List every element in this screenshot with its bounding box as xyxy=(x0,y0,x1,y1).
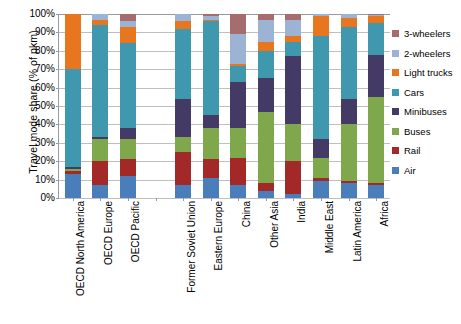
bar-segment[interactable] xyxy=(258,191,274,198)
bar-segment[interactable] xyxy=(120,14,136,21)
stacked-bar[interactable] xyxy=(65,14,81,198)
bar-segment[interactable] xyxy=(313,36,329,139)
bar-slot xyxy=(224,14,252,198)
y-tick-label: 30% xyxy=(35,138,55,148)
y-tick-label: 40% xyxy=(35,119,55,129)
x-label-slot: Middle East xyxy=(307,201,335,319)
stacked-bar[interactable] xyxy=(285,14,301,198)
bar-segment[interactable] xyxy=(341,18,357,27)
bar-segment[interactable] xyxy=(230,128,246,157)
bar-segment[interactable] xyxy=(341,27,357,99)
stacked-bar[interactable] xyxy=(368,14,384,198)
bar-segment[interactable] xyxy=(368,97,384,183)
x-axis-tick-label: OECD Europe xyxy=(104,201,114,265)
bar-segment[interactable] xyxy=(258,51,274,79)
bar-segment[interactable] xyxy=(258,78,274,111)
stacked-bar[interactable] xyxy=(120,14,136,198)
legend-item[interactable]: Minibuses xyxy=(392,102,461,122)
bar-segment[interactable] xyxy=(120,128,136,139)
legend-item[interactable]: Air xyxy=(392,161,461,181)
bar-segment[interactable] xyxy=(175,29,191,99)
bar-segment[interactable] xyxy=(285,161,301,194)
stacked-bar[interactable] xyxy=(258,14,274,198)
stacked-bar[interactable] xyxy=(341,14,357,198)
plot-area: 0%10%20%30%40%50%60%70%80%90%100% xyxy=(58,14,390,199)
stacked-bar[interactable] xyxy=(313,14,329,198)
legend-item[interactable]: 3-wheelers xyxy=(392,24,461,44)
bar-segment[interactable] xyxy=(65,14,81,69)
bar-segment[interactable] xyxy=(120,176,136,198)
bar-segment[interactable] xyxy=(313,158,329,178)
bar-segment[interactable] xyxy=(120,27,136,44)
bar-segment[interactable] xyxy=(368,185,384,198)
bar-segment[interactable] xyxy=(203,115,219,128)
bar-segment[interactable] xyxy=(175,14,191,21)
bar-segment[interactable] xyxy=(341,99,357,125)
bar-segment[interactable] xyxy=(175,21,191,28)
bar-segment[interactable] xyxy=(230,14,246,34)
legend-item[interactable]: Buses xyxy=(392,122,461,142)
bar-segment[interactable] xyxy=(313,181,329,198)
legend-label: Minibuses xyxy=(404,107,447,117)
bar-segment[interactable] xyxy=(92,139,108,161)
x-axis-tick-label: Eastern Europe xyxy=(214,201,224,271)
x-axis-tick-label: India xyxy=(297,201,307,223)
bar-segment[interactable] xyxy=(203,159,219,177)
bar-slot xyxy=(335,14,363,198)
bar-segment[interactable] xyxy=(120,159,136,176)
bar-segment[interactable] xyxy=(175,152,191,185)
legend-item[interactable]: Cars xyxy=(392,83,461,103)
bar-segment[interactable] xyxy=(368,16,384,23)
bar-segment[interactable] xyxy=(203,128,219,159)
bar-segment[interactable] xyxy=(285,124,301,161)
bar-segment[interactable] xyxy=(285,56,301,124)
bar-segment[interactable] xyxy=(230,158,246,186)
bar-segment[interactable] xyxy=(285,20,301,37)
legend-item[interactable]: 2-wheelers xyxy=(392,44,461,64)
bar-segment[interactable] xyxy=(92,25,108,137)
legend-item[interactable]: Light trucks xyxy=(392,63,461,83)
legend-swatch-icon xyxy=(392,128,399,135)
bar-segment[interactable] xyxy=(203,178,219,198)
bar-segment[interactable] xyxy=(341,124,357,181)
bar-segment[interactable] xyxy=(341,183,357,198)
stacked-bar[interactable] xyxy=(203,14,219,198)
bar-segment[interactable] xyxy=(175,185,191,198)
bar-segment[interactable] xyxy=(258,20,274,42)
bar-segment[interactable] xyxy=(313,16,329,36)
bar-segment[interactable] xyxy=(230,82,246,128)
bar-segment[interactable] xyxy=(175,137,191,152)
legend-item[interactable]: Rail xyxy=(392,141,461,161)
x-label-slot: Other Asia xyxy=(252,201,280,319)
bar-segment[interactable] xyxy=(120,43,136,128)
bar-segment[interactable] xyxy=(65,69,81,167)
bar-segment[interactable] xyxy=(92,161,108,185)
bar-segment[interactable] xyxy=(230,185,246,198)
y-tick-label: 20% xyxy=(35,156,55,166)
legend-swatch-icon xyxy=(392,89,399,96)
stacked-bar[interactable] xyxy=(230,14,246,198)
bar-segment[interactable] xyxy=(65,174,81,198)
bar-segment[interactable] xyxy=(175,99,191,138)
bar-segment[interactable] xyxy=(313,139,329,157)
bar-segment[interactable] xyxy=(258,112,274,184)
bar-segment[interactable] xyxy=(368,55,384,97)
bar-segment[interactable] xyxy=(203,21,219,115)
bar-segment[interactable] xyxy=(368,23,384,54)
bar-slot xyxy=(252,14,280,198)
bar-segment[interactable] xyxy=(120,139,136,159)
bar-segment[interactable] xyxy=(258,183,274,190)
x-label-slot: Former Soviet Union xyxy=(169,201,197,319)
x-label-slot: Latin America xyxy=(335,201,363,319)
bar-segment[interactable] xyxy=(230,34,246,63)
bar-segment[interactable] xyxy=(230,66,246,83)
bar-segment[interactable] xyxy=(258,42,274,51)
stacked-bar[interactable] xyxy=(175,14,191,198)
bar-segment[interactable] xyxy=(92,185,108,198)
legend-swatch-icon xyxy=(392,69,399,76)
stacked-bar[interactable] xyxy=(92,14,108,198)
x-axis-tick-label: Other Asia xyxy=(270,201,280,248)
bar-segment[interactable] xyxy=(285,42,301,57)
x-label-slot: China xyxy=(224,201,252,319)
legend-swatch-icon xyxy=(392,108,399,115)
